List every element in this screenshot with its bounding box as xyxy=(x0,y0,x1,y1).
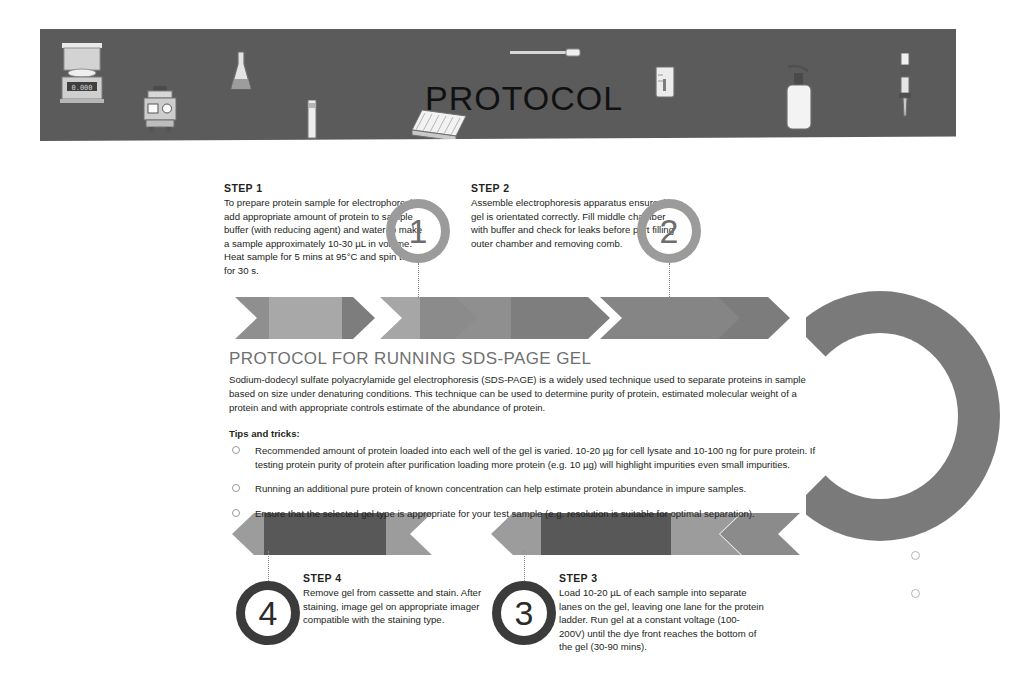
tips-list: Recommended amount of protein loaded int… xyxy=(229,444,819,531)
wash-bottle-icon xyxy=(782,63,818,135)
step-4-leader-line xyxy=(268,551,269,581)
step-2-title: STEP 2 xyxy=(471,182,677,194)
erlenmeyer-flask-icon xyxy=(228,51,254,93)
beaker-icon xyxy=(653,65,677,99)
list-item: Ensure that the selected gel type is app… xyxy=(229,507,819,521)
step-3-body: Load 10-20 µL of each sample into separa… xyxy=(559,586,765,654)
step-3-number: 3 xyxy=(515,596,534,630)
step-2-number: 2 xyxy=(660,214,679,248)
step-4-badge: 4 xyxy=(236,581,300,645)
list-item: Running an additional pure protein of kn… xyxy=(229,482,819,496)
tips-heading: Tips and tricks: xyxy=(229,428,300,439)
vortex-mixer-icon xyxy=(140,86,180,132)
protocol-heading: PROTOCOL FOR RUNNING SDS-PAGE GEL xyxy=(229,349,591,369)
step-2-leader-line xyxy=(669,263,670,299)
step-4-title: STEP 4 xyxy=(303,572,509,584)
step-4-text: STEP 4 Remove gel from cassette and stai… xyxy=(303,572,509,627)
tip-text: Running an additional pure protein of kn… xyxy=(255,483,746,494)
bullet-icon xyxy=(911,551,920,560)
step-3-title: STEP 3 xyxy=(559,572,765,584)
step-3-leader-line xyxy=(524,551,525,581)
step-3-text: STEP 3 Load 10-20 µL of each sample into… xyxy=(559,572,765,654)
bullet-icon xyxy=(232,484,240,492)
arrow-step-1 xyxy=(235,297,375,339)
cuvette-icon xyxy=(307,100,317,140)
protocol-description: Sodium-dodecyl sulfate polyacrylamide ge… xyxy=(229,373,809,415)
step-4-body: Remove gel from cassette and stain. Afte… xyxy=(303,586,509,627)
header-banner: 0.000 xyxy=(40,29,956,141)
arrow-step-2 xyxy=(455,297,610,339)
step-2-badge: 2 xyxy=(637,199,701,263)
step-1-number: 1 xyxy=(409,214,428,248)
svg-text:0.000: 0.000 xyxy=(71,84,92,92)
protocol-poster: 0.000 xyxy=(0,0,1031,696)
bullet-icon xyxy=(232,509,240,517)
bullet-icon xyxy=(911,589,920,598)
tip-text: Recommended amount of protein loaded int… xyxy=(255,445,815,470)
pipette-tip-icon xyxy=(510,47,584,59)
analytical-balance-icon: 0.000 xyxy=(58,41,106,111)
step-1-badge: 1 xyxy=(386,199,450,263)
single-channel-pipette-icon xyxy=(895,53,915,123)
step-1-leader-line xyxy=(418,263,419,299)
page-title: PROTOCOL xyxy=(425,79,623,118)
tip-text: Ensure that the selected gel type is app… xyxy=(255,508,755,519)
list-item: Recommended amount of protein loaded int… xyxy=(229,444,819,471)
step-4-number: 4 xyxy=(259,596,278,630)
step-1-title: STEP 1 xyxy=(224,182,430,194)
bullet-icon xyxy=(232,446,240,454)
